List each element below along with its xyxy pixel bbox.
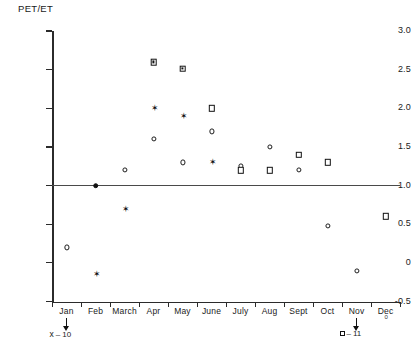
data-point-star-june: [209, 159, 215, 165]
chart-canvas: PET/ET 3.02.52.01.51.00.50-0.5 JanFebMar…: [0, 0, 411, 347]
y-tick-0.5: [46, 224, 52, 225]
data-point-open-circle-may: [180, 160, 185, 165]
data-point-open-circle-march: [122, 168, 127, 173]
y-tick-1.5: [46, 146, 52, 147]
y-tick-label-0: 0: [367, 257, 411, 267]
data-point-open-square-apr: [150, 59, 157, 66]
data-point-open-square-sept: [295, 151, 301, 157]
data-point-star-may: [180, 113, 186, 119]
data-point-filled-circle-feb: [93, 183, 99, 189]
data-point-open-square-may: [179, 65, 186, 72]
ann-jan-x-icon: x: [50, 329, 54, 339]
data-point-star-apr: [151, 105, 157, 111]
ann-jan-arrow-icon: [66, 318, 67, 327]
ann-jan-dash: –: [56, 330, 60, 339]
reference-line-1.0: [52, 185, 400, 187]
data-point-open-square-june: [208, 105, 214, 111]
data-point-open-circle-oct: [325, 223, 330, 228]
ann-nov-dash: –: [347, 329, 351, 338]
y-tick-label-1.5: 1.5: [367, 141, 411, 151]
y-axis-line: [52, 31, 54, 302]
data-point-open-square-aug: [266, 167, 272, 173]
data-point-star-feb: [93, 271, 99, 277]
y-tick-label-2.5: 2.5: [367, 64, 411, 74]
data-point-open-circle-jan: [64, 245, 69, 250]
ann-nov-value: 11: [353, 329, 361, 338]
ann-nov-arrow-icon: [356, 318, 357, 327]
data-point-open-circle-sept: [296, 168, 301, 173]
y-tick-2.5: [46, 69, 52, 70]
y-tick-3.0: [46, 30, 52, 31]
data-point-star-march: [122, 206, 128, 212]
y-axis-title: PET/ET: [18, 3, 53, 14]
y-tick-label-3.0: 3.0: [367, 25, 411, 35]
ann-nov-square-icon: [340, 331, 345, 336]
data-point-open-square-oct: [324, 159, 330, 165]
ann-nov-label: –11: [340, 329, 362, 338]
data-markers: [0, 0, 411, 13]
y-tick-0: [46, 262, 52, 263]
data-point-open-square-july: [237, 167, 243, 173]
data-point-open-circle-nov: [354, 268, 359, 273]
y-tick-label-0.5: 0.5: [367, 218, 411, 228]
data-point-open-circle-june: [209, 129, 214, 134]
ann-jan-label: x–10: [50, 329, 72, 339]
data-point-open-circle-apr: [151, 137, 156, 142]
data-point-open-circle-aug: [267, 144, 272, 149]
ann-jan-value: 10: [62, 330, 71, 339]
y-tick-label-2.0: 2.0: [367, 102, 411, 112]
y-tick-2.0: [46, 108, 52, 109]
y-tick-label--0.5: -0.5: [367, 296, 411, 306]
data-point-open-square-dec: [382, 213, 388, 219]
dec-subscript: 0: [385, 314, 388, 320]
